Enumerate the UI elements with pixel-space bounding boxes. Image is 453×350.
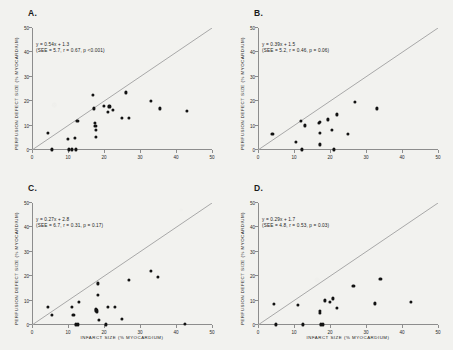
- x-tick: [330, 325, 331, 328]
- data-point: [149, 100, 152, 103]
- x-tick-label: 30: [138, 155, 143, 160]
- data-point: [273, 303, 276, 306]
- y-tick: [29, 100, 32, 101]
- panel-d-ylabel: PERFUSION DEFECT SIZE (% MYOCARDIUM): [240, 212, 245, 325]
- data-point: [319, 309, 322, 312]
- data-point: [183, 323, 186, 326]
- x-tick: [104, 150, 105, 153]
- x-tick: [366, 150, 367, 153]
- y-tick: [255, 275, 258, 276]
- x-tick-label: 50: [436, 330, 441, 335]
- x-tick-label: 50: [210, 155, 215, 160]
- x-tick: [258, 325, 259, 328]
- panel-a-plot: 0102030405001020304050: [32, 28, 212, 150]
- panel-d-plot: 0102030405001020304050: [258, 203, 438, 325]
- x-tick-label: 20: [328, 155, 333, 160]
- data-point: [156, 275, 159, 278]
- data-point: [327, 118, 330, 121]
- y-tick-label: 10: [246, 298, 255, 303]
- x-tick: [32, 150, 33, 153]
- y-tick-label: 0: [20, 148, 29, 153]
- data-point: [303, 124, 306, 127]
- x-tick: [438, 325, 439, 328]
- panel-d-label: D.: [254, 183, 263, 193]
- x-tick-label: 10: [66, 155, 71, 160]
- x-tick: [32, 325, 33, 328]
- panel-c-label: C.: [28, 183, 37, 193]
- y-tick-label: 40: [20, 225, 29, 230]
- y-tick-label: 10: [246, 123, 255, 128]
- y-tick: [29, 76, 32, 77]
- data-point: [158, 107, 161, 110]
- data-point: [346, 133, 349, 136]
- x-tick: [402, 150, 403, 153]
- x-tick-label: 40: [174, 330, 179, 335]
- panel-b: B. y = 0.39x + 1.5 (SEE = 5.2, r = 0.46,…: [226, 0, 452, 175]
- y-tick-label: 20: [246, 99, 255, 104]
- data-point: [328, 300, 331, 303]
- data-point: [106, 305, 109, 308]
- x-tick: [212, 325, 213, 328]
- panel-a: A. y = 0.54x + 1.3 (SEE = 5.7, r = 0.67,…: [0, 0, 226, 175]
- y-tick: [29, 275, 32, 276]
- data-point: [321, 323, 324, 326]
- data-point: [301, 323, 304, 326]
- panel-a-label: A.: [28, 8, 37, 18]
- x-tick-label: 40: [400, 330, 405, 335]
- panel-b-plot: 0102030405001020304050: [258, 28, 438, 150]
- y-tick: [29, 27, 32, 28]
- data-point: [70, 148, 73, 151]
- data-point: [128, 279, 131, 282]
- x-tick-label: 30: [364, 155, 369, 160]
- y-tick: [29, 125, 32, 126]
- x-tick-label: 10: [292, 155, 297, 160]
- data-point: [336, 307, 339, 310]
- panel-c: C. y = 0.27x + 2.8 (SEE = 6.7, r = 0.31,…: [0, 175, 226, 350]
- data-point: [274, 323, 277, 326]
- data-point: [111, 109, 114, 112]
- x-tick-label: 50: [436, 155, 441, 160]
- y-tick: [255, 100, 258, 101]
- data-point: [124, 91, 127, 94]
- x-tick-label: 0: [257, 330, 259, 335]
- data-point: [379, 278, 382, 281]
- y-axis-line: [258, 28, 259, 150]
- data-point: [336, 113, 339, 116]
- data-point: [318, 120, 321, 123]
- data-point: [66, 137, 69, 140]
- data-point: [120, 117, 123, 120]
- panel-c-xlabel: INFARCT SIZE (% MYOCARDIUM): [81, 335, 164, 340]
- y-tick-label: 30: [246, 74, 255, 79]
- data-point: [352, 285, 355, 288]
- x-tick-label: 40: [174, 155, 179, 160]
- identity-line: [32, 28, 212, 150]
- data-point: [185, 109, 188, 112]
- y-tick-label: 20: [246, 274, 255, 279]
- data-point: [300, 120, 303, 123]
- y-tick-label: 0: [20, 323, 29, 328]
- x-tick: [176, 325, 177, 328]
- data-point: [120, 318, 123, 321]
- x-tick: [258, 150, 259, 153]
- y-tick: [255, 202, 258, 203]
- y-tick-label: 0: [246, 323, 255, 328]
- y-tick: [255, 149, 258, 150]
- x-tick: [438, 150, 439, 153]
- data-point: [128, 116, 131, 119]
- y-axis-line: [258, 203, 259, 325]
- y-tick: [29, 202, 32, 203]
- data-point: [94, 125, 97, 128]
- data-point: [96, 282, 99, 285]
- data-point: [104, 323, 107, 326]
- identity-line: [258, 203, 438, 325]
- x-tick-label: 20: [102, 155, 107, 160]
- data-point: [94, 136, 97, 139]
- x-tick-label: 50: [210, 330, 215, 335]
- data-point: [75, 148, 78, 151]
- data-point: [97, 319, 100, 322]
- y-tick-label: 50: [20, 26, 29, 31]
- y-tick-label: 30: [20, 249, 29, 254]
- y-tick-label: 30: [246, 249, 255, 254]
- y-tick-label: 20: [20, 274, 29, 279]
- y-tick: [255, 51, 258, 52]
